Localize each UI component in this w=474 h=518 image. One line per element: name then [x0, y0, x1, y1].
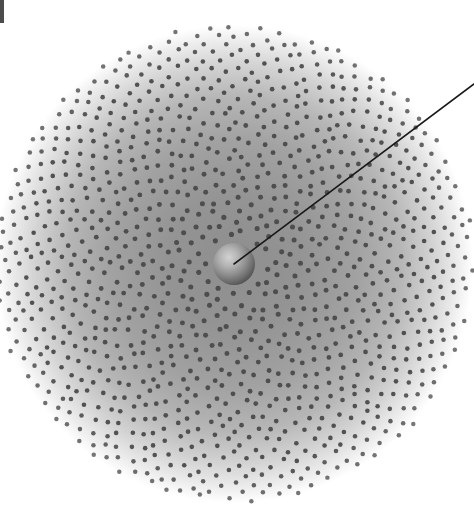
dot — [234, 220, 239, 225]
dot — [310, 237, 315, 242]
dot — [270, 87, 275, 92]
dot — [118, 57, 123, 62]
dot — [370, 138, 375, 143]
dot — [35, 383, 40, 388]
dot — [335, 202, 340, 207]
dot — [277, 341, 282, 346]
dot — [76, 271, 81, 276]
dot — [429, 339, 434, 344]
dot — [310, 253, 315, 258]
dot — [260, 317, 265, 322]
dot — [282, 43, 287, 48]
dot — [159, 360, 164, 365]
dot — [371, 206, 376, 211]
dot — [419, 257, 424, 262]
dot — [381, 378, 386, 383]
dot — [306, 336, 311, 341]
dot — [361, 420, 366, 425]
dot — [108, 111, 113, 116]
dot — [245, 32, 250, 37]
dot — [436, 169, 441, 174]
dot — [130, 445, 135, 450]
dot — [14, 339, 19, 344]
dot — [26, 178, 31, 183]
dot — [255, 174, 260, 179]
dot — [129, 197, 134, 202]
dot — [277, 31, 282, 36]
dot — [77, 125, 82, 130]
dot — [104, 79, 109, 84]
dot — [185, 386, 190, 391]
dot — [383, 227, 388, 232]
dot — [407, 380, 412, 385]
dot — [227, 372, 232, 377]
dot — [418, 342, 423, 347]
dot — [194, 142, 199, 147]
dot — [169, 354, 174, 359]
dot — [56, 406, 61, 411]
dot — [39, 149, 44, 154]
dot — [239, 423, 244, 428]
dot — [238, 228, 243, 233]
dot — [365, 408, 370, 413]
dot — [251, 307, 256, 312]
dot — [330, 327, 335, 332]
dot — [271, 150, 276, 155]
dot — [286, 346, 291, 351]
dot — [272, 448, 277, 453]
dot — [322, 460, 327, 465]
dot — [141, 340, 146, 345]
dot — [11, 209, 16, 214]
dot — [16, 301, 21, 306]
dot — [430, 302, 435, 307]
dot — [404, 393, 409, 398]
dot — [328, 59, 333, 64]
dot — [217, 412, 222, 417]
dot — [219, 367, 224, 372]
dot — [218, 327, 223, 332]
dot — [164, 488, 168, 492]
dot — [299, 476, 304, 481]
dot — [402, 331, 407, 336]
dot — [376, 309, 381, 314]
dot — [146, 244, 151, 249]
dot — [312, 50, 317, 55]
dot — [304, 89, 309, 94]
dot — [299, 64, 304, 69]
dot — [432, 230, 437, 235]
dot — [163, 413, 168, 418]
dot — [343, 134, 348, 139]
dot — [160, 370, 165, 375]
dot — [74, 227, 79, 232]
dot — [286, 383, 291, 388]
dot — [243, 123, 248, 128]
dot — [422, 206, 427, 211]
dot — [64, 151, 69, 156]
dot — [217, 33, 222, 38]
dot — [350, 319, 355, 324]
dot — [380, 77, 384, 81]
dot — [42, 327, 47, 332]
dot — [173, 307, 178, 312]
dot — [251, 415, 256, 420]
dot — [96, 297, 101, 302]
dot — [362, 292, 367, 297]
dot — [88, 91, 93, 96]
dot — [118, 356, 123, 361]
dot — [404, 148, 409, 153]
dot — [57, 112, 62, 117]
dot — [149, 109, 154, 114]
dot — [93, 336, 98, 341]
dot — [60, 233, 65, 238]
dot — [442, 225, 447, 230]
dot — [17, 261, 22, 266]
dot — [237, 443, 242, 448]
dot — [141, 262, 146, 267]
dot — [266, 338, 271, 343]
dot — [273, 289, 278, 294]
dot — [184, 354, 189, 359]
dot — [256, 53, 261, 58]
dot — [25, 292, 30, 297]
dot — [237, 347, 242, 352]
dot — [249, 202, 254, 207]
